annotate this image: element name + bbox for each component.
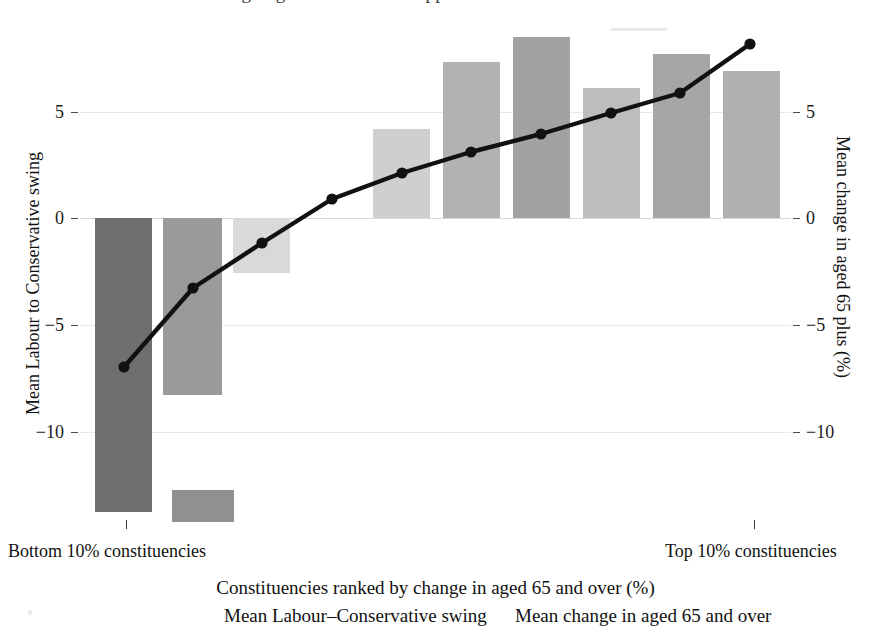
x-tick-right: [754, 520, 755, 529]
figure-root: Ageing electorate and support for the Co…: [0, 0, 871, 634]
right-tick-dash-neg5: [793, 325, 800, 326]
gridline-neg10: [80, 432, 791, 433]
left-tick-dash-0: [71, 218, 78, 219]
y-axis-right-title: Mean change in aged 65 plus (%): [834, 136, 852, 378]
plot-area: [80, 12, 791, 512]
right-tick-dash-neg10: [793, 432, 800, 433]
bar-10: [723, 71, 780, 218]
right-tick-label-neg10: −10: [806, 423, 834, 441]
figure-title-text: Ageing electorate and support for the Co…: [0, 0, 871, 4]
left-tick-label-neg10: −10: [6, 423, 64, 441]
bar-2: [163, 218, 222, 395]
bar-9: [653, 54, 710, 218]
legend-item-aged65[interactable]: Mean change in aged 65 and over: [515, 606, 771, 625]
left-tick-dash-neg5: [71, 325, 78, 326]
right-tick-label-neg5: −5: [806, 316, 825, 334]
figure-title-clipped: Ageing electorate and support for the Co…: [0, 0, 871, 8]
legend-item-swing[interactable]: Mean Labour–Conservative swing: [224, 606, 487, 625]
bar-6: [443, 62, 500, 218]
right-tick-label-5: 5: [806, 103, 815, 121]
bar-8: [583, 88, 640, 218]
right-tick-dash-5: [793, 112, 800, 113]
left-tick-dash-5: [71, 112, 78, 113]
x-tick-left: [126, 520, 127, 529]
bar-7: [513, 37, 570, 218]
y-axis-left-title: Mean Labour to Conservative swing: [24, 152, 42, 415]
left-tick-dash-neg10: [71, 432, 78, 433]
x-label-bottom-decile: Bottom 10% constituencies: [8, 542, 206, 560]
bar-5: [373, 129, 430, 218]
right-tick-label-0: 0: [806, 209, 815, 227]
right-tick-dash-0: [793, 218, 800, 219]
x-axis-title: Constituencies ranked by change in aged …: [0, 578, 871, 597]
bar-3: [233, 218, 290, 273]
x-label-top-decile: Top 10% constituencies: [665, 542, 837, 560]
left-tick-label-5: 5: [14, 103, 64, 121]
legend: Mean Labour–Conservative swing Mean chan…: [0, 606, 871, 630]
bar-1: [95, 218, 152, 512]
